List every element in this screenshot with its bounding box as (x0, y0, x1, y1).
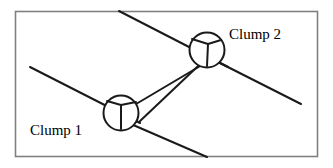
clump-diagram: Clump 1 Clump 2 (0, 0, 333, 168)
figure-container: Clump 1 Clump 2 (0, 0, 333, 168)
clump-2-circle-spoke-2 (207, 44, 208, 66)
clump-1-circle-group (104, 96, 139, 131)
through-line-bottom-right (210, 58, 301, 104)
clump-2-circle-group (190, 33, 225, 68)
clump-2-label: Clump 2 (229, 26, 281, 42)
through-line-bottom-center (124, 121, 207, 157)
clump-1-label: Clump 1 (30, 122, 82, 138)
clump-nodes-group (104, 33, 225, 131)
